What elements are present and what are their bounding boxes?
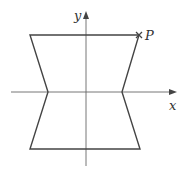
- y-axis-label: y: [73, 8, 82, 23]
- x-axis-arrow-icon: [169, 89, 177, 95]
- x-axis-label: x: [169, 98, 177, 113]
- point-p-label: P: [144, 28, 154, 43]
- coordinate-figure: y x P: [0, 0, 186, 169]
- y-axis: [83, 11, 89, 166]
- y-axis-arrow-icon: [83, 11, 89, 19]
- x-axis: [11, 89, 177, 95]
